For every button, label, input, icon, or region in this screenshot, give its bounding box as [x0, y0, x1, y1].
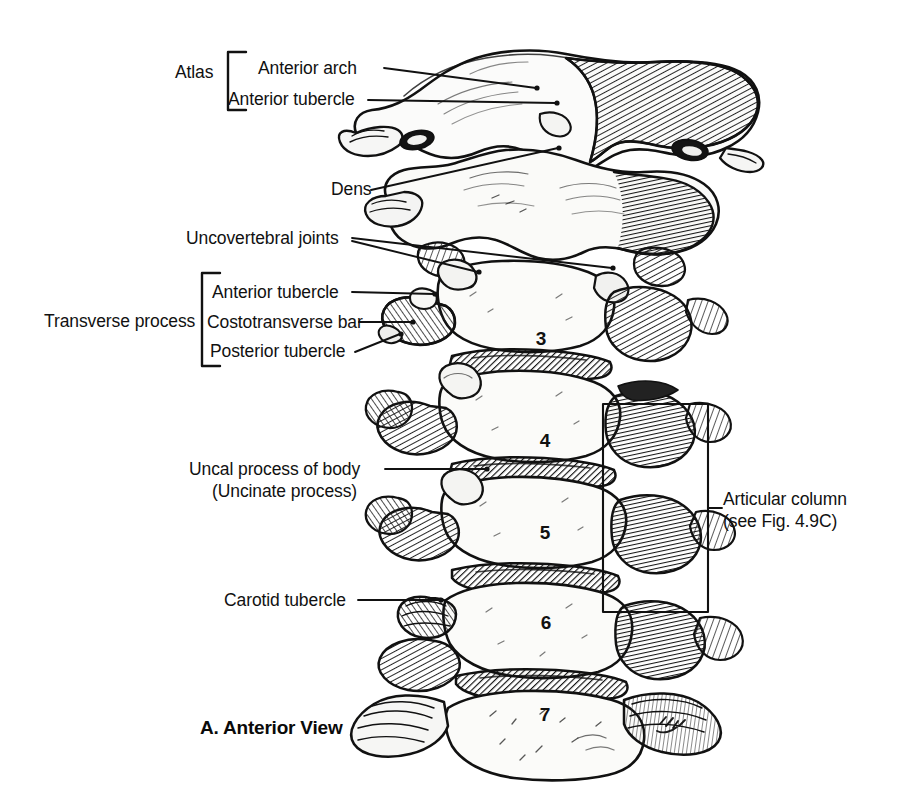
label-uncinate-process: (Uncinate process) [212, 481, 357, 502]
label-see-fig: (see Fig. 4.9C) [723, 511, 837, 532]
figure-caption: A. Anterior View [200, 717, 343, 739]
label-carotid-tubercle: Carotid tubercle [224, 590, 346, 611]
label-atlas: Atlas [175, 62, 213, 83]
vertebra-number-6: 6 [534, 612, 558, 634]
label-transverse-process: Transverse process [44, 311, 195, 332]
vertebra-number-5: 5 [533, 522, 557, 544]
label-anterior-arch: Anterior arch [258, 58, 357, 79]
vertebra-c4-bone [366, 363, 731, 490]
label-dens: Dens [331, 179, 371, 200]
label-costotransverse-bar: Costotransverse bar [207, 312, 363, 333]
vertebra-number-4: 4 [533, 430, 557, 452]
label-posterior-tubercle: Posterior tubercle [210, 341, 345, 362]
label-anterior-tubercle-atlas: Anterior tubercle [228, 89, 355, 110]
label-uncovertebral-joints: Uncovertebral joints [186, 228, 339, 249]
label-articular-column: Articular column [723, 489, 847, 510]
cervical-spine-illustration [0, 0, 902, 801]
anatomy-figure: Atlas Anterior arch Anterior tubercle De… [0, 0, 902, 801]
label-uncal-process: Uncal process of body [189, 459, 360, 480]
vertebra-number-7: 7 [533, 704, 557, 726]
vertebra-number-3: 3 [529, 328, 553, 350]
label-anterior-tubercle-tp: Anterior tubercle [212, 282, 339, 303]
